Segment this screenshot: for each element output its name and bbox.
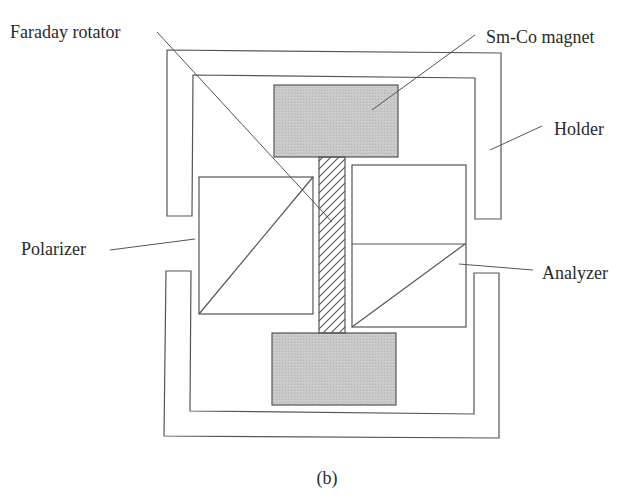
figure-caption: (b)	[317, 468, 338, 489]
lower-magnet	[272, 333, 396, 405]
label-holder: Holder	[554, 119, 604, 139]
leader-holder	[490, 126, 542, 150]
label-faraday-rotator: Faraday rotator	[10, 22, 120, 42]
analyzer	[352, 165, 466, 327]
polarizer-diagonal	[199, 177, 313, 314]
analyzer-diagonal	[352, 244, 465, 327]
label-sm-co-magnet: Sm-Co magnet	[486, 27, 595, 47]
leader-sm-co-magnet	[372, 35, 475, 110]
leader-analyzer	[459, 264, 533, 270]
analyzer-body	[352, 165, 466, 327]
label-polarizer: Polarizer	[21, 239, 86, 259]
faraday-isolator-diagram: Faraday rotator Sm-Co magnet Holder Pola…	[0, 0, 639, 501]
faraday-rotator	[319, 157, 345, 333]
polarizer	[199, 177, 313, 314]
leader-polarizer	[110, 239, 195, 250]
label-analyzer: Analyzer	[542, 263, 608, 283]
upper-magnet	[274, 85, 398, 157]
